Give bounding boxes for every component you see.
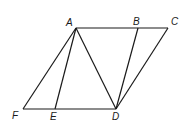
- label-a: A: [65, 17, 73, 28]
- segment-af: [23, 28, 76, 109]
- segments: [23, 28, 168, 109]
- geometry-diagram: A B C F E D: [0, 0, 185, 123]
- segment-bd: [116, 28, 138, 109]
- label-b: B: [133, 16, 140, 27]
- label-c: C: [171, 16, 179, 27]
- label-d: D: [112, 111, 119, 122]
- segment-cd: [116, 28, 168, 109]
- segment-ad: [76, 28, 116, 109]
- label-e: E: [50, 111, 57, 122]
- segment-ae: [55, 28, 76, 109]
- point-labels: A B C F E D: [12, 16, 179, 122]
- label-f: F: [12, 110, 19, 121]
